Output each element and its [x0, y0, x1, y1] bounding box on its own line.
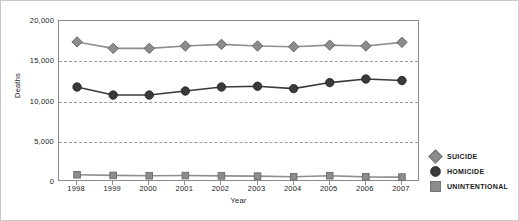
data-point-marker: [217, 83, 225, 91]
x-axis-tick-label: 2001: [176, 184, 194, 193]
y-axis-tick-label: 20,000: [2, 16, 54, 25]
plot-area: [58, 20, 419, 181]
data-point-marker: [144, 43, 154, 53]
data-point-marker: [109, 91, 117, 99]
data-point-marker: [182, 172, 189, 179]
x-axis-tick-label: 1998: [67, 184, 85, 193]
legend-item-label: SUICIDE: [447, 153, 478, 160]
series-homicide: [73, 75, 406, 100]
data-point-marker: [74, 171, 81, 178]
y-axis-tick-label: 15,000: [2, 56, 54, 65]
y-axis-tick-label: 10,000: [2, 96, 54, 105]
data-point-marker: [180, 41, 190, 51]
circle-marker-icon: [430, 166, 441, 177]
data-point-marker: [399, 174, 406, 181]
data-point-marker: [398, 76, 406, 84]
y-axis-tick-label: 5,000: [2, 136, 54, 145]
series-suicide: [72, 37, 407, 54]
data-point-marker: [362, 75, 370, 83]
x-axis-tick-label: 2005: [320, 184, 338, 193]
data-point-marker: [253, 82, 261, 90]
data-point-marker: [145, 91, 153, 99]
legend-item-label: HOMICIDE: [447, 168, 484, 175]
x-axis-tick-label: 2004: [284, 184, 302, 193]
data-point-marker: [181, 87, 189, 95]
y-axis-tick-labels: 05,00010,00015,00020,000: [1, 20, 54, 181]
x-axis-title: Year: [58, 196, 419, 205]
x-axis-tick-label: 2007: [392, 184, 410, 193]
data-point-marker: [73, 83, 81, 91]
data-point-marker: [326, 78, 334, 86]
legend-item-unintentional[interactable]: UNINTENTIONAL: [429, 179, 517, 194]
data-point-marker: [326, 172, 333, 179]
data-point-marker: [216, 39, 226, 49]
x-axis-tick-label: 2006: [356, 184, 374, 193]
gridline: [59, 102, 418, 103]
data-point-marker: [146, 172, 153, 179]
series-line: [77, 79, 402, 95]
data-point-marker: [218, 173, 225, 180]
series-line: [77, 175, 402, 177]
legend-item-homicide[interactable]: HOMICIDE: [429, 164, 517, 179]
diamond-marker-icon: [428, 149, 442, 163]
data-point-marker: [110, 172, 117, 179]
square-marker-icon: [430, 181, 441, 192]
data-point-marker: [363, 174, 370, 181]
legend-item-label: UNINTENTIONAL: [447, 183, 508, 190]
data-point-marker: [72, 37, 82, 47]
data-point-marker: [290, 173, 297, 180]
legend-item-suicide[interactable]: SUICIDE: [429, 149, 517, 164]
data-point-marker: [361, 41, 371, 51]
gridline: [59, 142, 418, 143]
data-point-marker: [397, 37, 407, 47]
chart-container: Deaths 05,00010,00015,00020,000 19981999…: [0, 0, 519, 221]
series-unintentional: [74, 171, 406, 180]
data-point-marker: [254, 173, 261, 180]
x-axis-tick-label: 2002: [212, 184, 230, 193]
x-axis-tick-label: 2000: [140, 184, 158, 193]
data-point-marker: [108, 43, 118, 53]
data-point-marker: [289, 84, 297, 92]
y-axis-tick-label: 0: [2, 177, 54, 186]
x-axis-tick-label: 1999: [103, 184, 121, 193]
series-line: [77, 42, 402, 48]
data-point-marker: [325, 40, 335, 50]
data-point-marker: [288, 42, 298, 52]
chart-legend: SUICIDEHOMICIDEUNINTENTIONAL: [429, 149, 517, 194]
gridline: [59, 61, 418, 62]
data-point-marker: [252, 41, 262, 51]
x-axis-tick-label: 2003: [248, 184, 266, 193]
